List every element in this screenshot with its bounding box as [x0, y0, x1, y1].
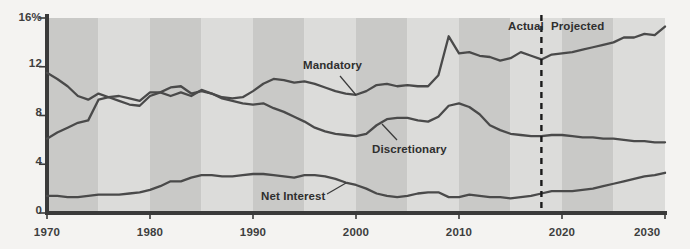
projected-label: Projected [551, 20, 604, 32]
background-band [459, 18, 511, 213]
x-tick-label-1970: 1970 [17, 226, 77, 238]
x-tick-label-2020: 2020 [532, 226, 592, 238]
actual-label: Actual [508, 20, 544, 32]
background-band [356, 18, 408, 213]
chart-plot-area [0, 0, 690, 249]
background-band [614, 18, 666, 213]
y-tick-label-0: 0 [0, 204, 42, 216]
y-tick-label-16: 16% [0, 11, 42, 23]
background-band [202, 18, 254, 213]
x-tick-label-1980: 1980 [120, 226, 180, 238]
y-tick-label-8: 8 [0, 106, 42, 118]
chart-figure: 16% 12 8 4 0 1970 1980 1990 2000 2010 20… [0, 0, 690, 249]
background-band [150, 18, 202, 213]
x-tick-label-2000: 2000 [326, 226, 386, 238]
x-tick-label-1990: 1990 [223, 226, 283, 238]
background-band [408, 18, 460, 213]
background-band [99, 18, 151, 213]
series-label-net-interest: Net Interest [261, 190, 325, 202]
background-band [511, 18, 563, 213]
x-tick-label-2010: 2010 [429, 226, 489, 238]
series-label-mandatory: Mandatory [303, 59, 362, 71]
x-tick-label-2030: 2030 [634, 226, 690, 238]
series-label-discretionary: Discretionary [372, 143, 447, 155]
background-band [253, 18, 305, 213]
y-tick-label-4: 4 [0, 155, 42, 167]
background-band [562, 18, 614, 213]
y-tick-label-12: 12 [0, 57, 42, 69]
background-bands [47, 18, 665, 213]
